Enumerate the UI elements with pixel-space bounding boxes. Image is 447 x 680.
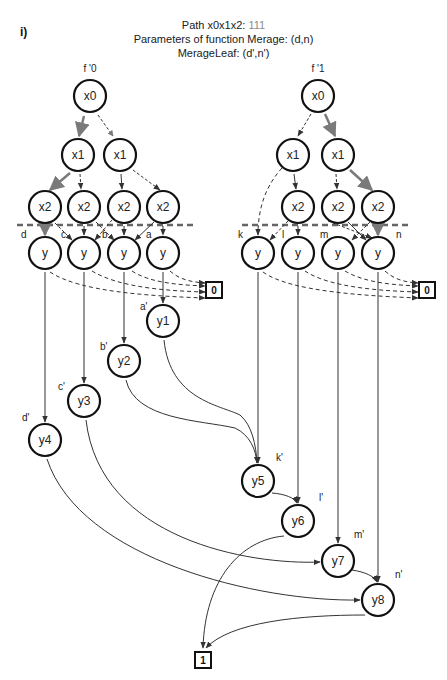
- node-y2: y2: [108, 345, 140, 377]
- node-l_x2a: x2: [29, 191, 61, 223]
- terminal-t1: 1: [195, 652, 211, 668]
- node-l_yc: y: [68, 237, 100, 269]
- node-tag: k: [238, 229, 244, 240]
- node-r_x1a: x1: [277, 139, 309, 171]
- node-r_yk: y: [242, 237, 274, 269]
- node-label: y5: [252, 474, 265, 488]
- node-label: y: [121, 246, 127, 260]
- node-l_x2b: x2: [68, 191, 100, 223]
- node-l_ya: y: [147, 237, 179, 269]
- node-label: y3: [78, 394, 91, 408]
- node-y5: y5: [242, 465, 274, 497]
- node-r_x1b: x1: [322, 139, 354, 171]
- node-tag: b: [102, 229, 108, 240]
- node-label: y: [335, 246, 341, 260]
- node-y8: y8: [362, 584, 394, 616]
- node-r_yl: y: [282, 237, 314, 269]
- node-r_x2a: x2: [282, 191, 314, 223]
- node-label: x1: [287, 148, 300, 162]
- node-y6: y6: [282, 505, 314, 537]
- node-tag: l: [282, 229, 284, 240]
- node-label: y6: [292, 514, 305, 528]
- node-label: y8: [372, 593, 385, 607]
- node-l_yd: y: [29, 237, 61, 269]
- terminal-t0_left: 0: [206, 282, 222, 298]
- merged-edges: [45, 272, 378, 648]
- node-label: y7: [332, 554, 345, 568]
- node-label: y: [295, 246, 301, 260]
- node-label: x2: [118, 200, 131, 214]
- node-tag: m: [320, 229, 328, 240]
- node-label: y: [255, 246, 261, 260]
- node-l_x1b: x1: [104, 139, 136, 171]
- node-tag: a': [140, 301, 148, 312]
- node-tag: l': [319, 492, 323, 503]
- tree-label-f1: f '1: [311, 63, 324, 74]
- node-tag: k': [276, 452, 283, 463]
- node-label: y1: [157, 314, 170, 328]
- node-l_yb: y: [108, 237, 140, 269]
- node-l_x2d: x2: [147, 191, 179, 223]
- terminal-label: 0: [211, 285, 217, 296]
- node-tag: m': [354, 529, 364, 540]
- node-label: y: [81, 246, 87, 260]
- terminals-layer: 001: [195, 282, 435, 668]
- node-label: y: [375, 246, 381, 260]
- terminal-t0_right: 0: [419, 282, 435, 298]
- node-tag: a: [146, 229, 152, 240]
- node-tag: c': [58, 381, 65, 392]
- node-label: x1: [332, 148, 345, 162]
- node-y1: y1: [147, 305, 179, 337]
- node-y7: y7: [322, 545, 354, 577]
- node-tag: d': [22, 412, 30, 423]
- node-label: x2: [372, 200, 385, 214]
- node-r_x0: x0: [302, 80, 334, 112]
- node-tag: n: [396, 229, 402, 240]
- node-tag: d: [21, 229, 27, 240]
- node-l_x0: x0: [74, 80, 106, 112]
- node-label: x2: [332, 200, 345, 214]
- node-y4: y4: [29, 424, 61, 456]
- node-r_yn: y: [362, 237, 394, 269]
- node-r_x2c: x2: [362, 191, 394, 223]
- node-l_x1a: x1: [62, 139, 94, 171]
- node-label: y4: [39, 433, 52, 447]
- node-label: x2: [292, 200, 305, 214]
- node-r_ym: y: [322, 237, 354, 269]
- node-tag: b': [100, 341, 108, 352]
- node-label: x1: [72, 148, 85, 162]
- terminal-label: 1: [200, 655, 206, 666]
- node-label: x2: [39, 200, 52, 214]
- node-label: x0: [312, 89, 325, 103]
- node-label: x1: [114, 148, 127, 162]
- node-label: y: [42, 246, 48, 260]
- node-y3: y3: [68, 385, 100, 417]
- terminal-label: 0: [424, 285, 430, 296]
- node-l_x2c: x2: [108, 191, 140, 223]
- node-label: x0: [84, 89, 97, 103]
- node-tag: n': [395, 569, 403, 580]
- node-label: x2: [157, 200, 170, 214]
- tree-label-f0: f '0: [83, 63, 96, 74]
- node-label: x2: [78, 200, 91, 214]
- node-label: y: [160, 246, 166, 260]
- node-r_x2b: x2: [322, 191, 354, 223]
- node-label: y2: [118, 354, 131, 368]
- bdd-diagram: f '0 f '1: [0, 0, 447, 680]
- node-tag: c: [61, 229, 66, 240]
